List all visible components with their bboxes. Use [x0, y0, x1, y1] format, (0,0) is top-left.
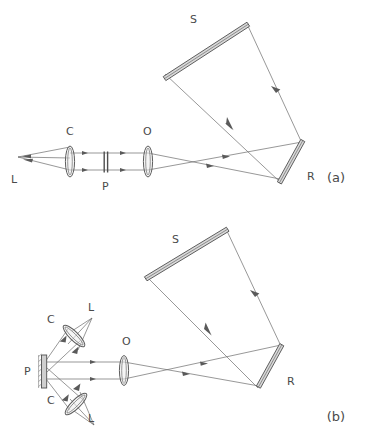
label-b-R: R: [287, 375, 295, 388]
arrow-b-collimated-upper: [90, 360, 96, 364]
label-a-C: C: [66, 125, 74, 138]
panel-a-rays-collimated: [70, 151, 148, 172]
label-a-P: P: [102, 180, 109, 193]
panel-caption-b: (b): [327, 409, 345, 424]
label-a-S: S: [190, 13, 197, 26]
mirror-s-panel-b[interactable]: [144, 227, 229, 281]
arrow-converging-1: [206, 164, 214, 168]
lens-o-panel-a[interactable]: [143, 146, 152, 177]
label-b-O: O: [122, 335, 131, 348]
label-b-L-upper: L: [88, 301, 95, 314]
arrow-from-mirror-s: [271, 86, 280, 93]
arrow-collimated-lower-2: [120, 168, 126, 172]
arrow-to-mirror-s: [225, 117, 234, 130]
mirror-s-panel-a[interactable]: [163, 22, 249, 80]
mirror-r-panel-b[interactable]: [256, 344, 283, 389]
lens-c-panel-a[interactable]: [65, 146, 74, 177]
panel-b: L C P C L O S R (b): [24, 227, 345, 425]
arrow-b-to-mirror-s: [204, 323, 212, 336]
label-a-R: R: [307, 170, 315, 183]
panel-a-rays-source: [18, 147, 70, 170]
arrow-lower-arm-out: [73, 384, 80, 391]
panel-a-rays-mirror-legs: [165, 26, 301, 181]
panel-b-rays-converging: [124, 345, 281, 386]
arrow-collimated-lower-1: [82, 168, 88, 172]
label-b-L-lower: L: [88, 412, 95, 425]
lens-c-upper-panel-b[interactable]: [61, 323, 88, 350]
label-b-S: S: [172, 233, 179, 246]
arrow-collimated-upper-1: [82, 151, 88, 155]
plate-p-panel-b[interactable]: [39, 354, 47, 388]
arrow-b-collimated-lower: [90, 377, 96, 381]
lens-o-panel-b[interactable]: [119, 356, 128, 386]
mirror-r-panel-a[interactable]: [277, 139, 304, 184]
panel-caption-a: (a): [327, 170, 345, 185]
arrow-b-converging-2: [200, 361, 208, 365]
arrow-to-source-2: [23, 159, 33, 163]
arrow-collimated-upper-2: [120, 151, 126, 155]
arrow-b-from-mirror-s: [250, 290, 259, 297]
arrow-b-converging-1: [182, 372, 190, 376]
label-b-P: P: [24, 365, 31, 378]
optical-diagram: L C P O S R (a): [0, 0, 380, 438]
panel-a-rays-converging: [148, 142, 302, 179]
panel-b-rays-mirror-legs: [147, 231, 280, 388]
label-a-L: L: [11, 173, 18, 186]
figure-root: L C P O S R (a): [0, 0, 380, 438]
label-b-C-upper: C: [47, 313, 55, 326]
label-a-O: O: [143, 125, 152, 138]
plate-p-panel-a[interactable]: [104, 152, 107, 173]
label-b-C-lower: C: [47, 394, 55, 407]
panel-a: L C P O S R (a): [11, 13, 345, 193]
